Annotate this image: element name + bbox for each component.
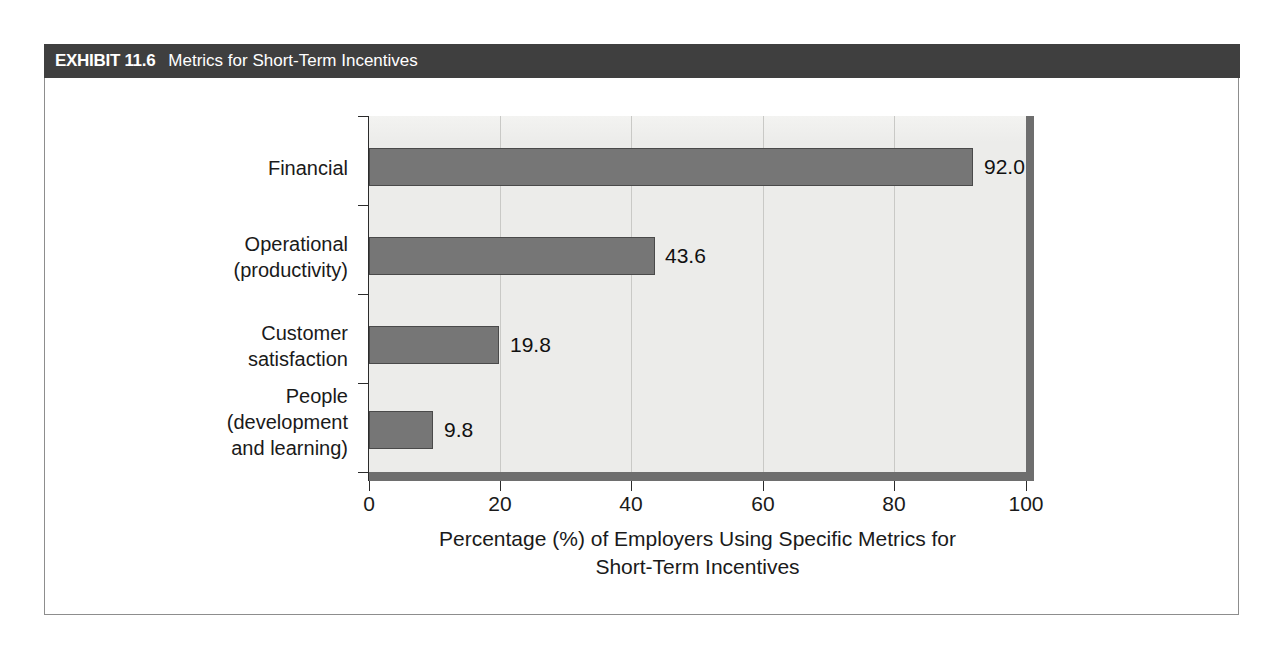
xtick-label-60: 60 — [751, 492, 774, 516]
xtick-mark-0 — [369, 481, 370, 491]
category-tick-0 — [358, 116, 369, 117]
bar-value-financial: 92.0 — [984, 155, 1025, 179]
category-label-line: (development — [88, 409, 348, 435]
category-label-line: satisfaction — [88, 346, 348, 372]
category-label-line: Financial — [88, 155, 348, 181]
xtick-label-100: 100 — [1008, 492, 1043, 516]
xtick-label-20: 20 — [488, 492, 511, 516]
category-label-line: Operational — [88, 231, 348, 257]
bar-financial[interactable] — [369, 148, 973, 186]
bar-value-operational: 43.6 — [665, 244, 706, 268]
category-tick-4 — [358, 472, 369, 473]
xtick-mark-100 — [1026, 481, 1027, 491]
category-label-operational: Operational (productivity) — [88, 231, 348, 283]
plot-right-wall-shadow — [1026, 116, 1034, 472]
xtick-mark-20 — [500, 481, 501, 491]
bar-customer-satisfaction[interactable] — [369, 326, 499, 364]
xtick-label-40: 40 — [619, 492, 642, 516]
category-tick-3 — [358, 383, 369, 384]
category-tick-2 — [358, 294, 369, 295]
x-axis-title-line2: Short-Term Incentives — [369, 553, 1026, 581]
category-label-line: (productivity) — [88, 257, 348, 283]
xtick-mark-80 — [894, 481, 895, 491]
bar-value-customer-satisfaction: 19.8 — [510, 333, 551, 357]
category-label-people: People (development and learning) — [88, 383, 348, 461]
bar-operational[interactable] — [369, 237, 655, 275]
x-axis-title: Percentage (%) of Employers Using Specif… — [369, 525, 1026, 581]
category-label-line: People — [88, 383, 348, 409]
bar-value-people: 9.8 — [444, 418, 473, 442]
x-axis-title-line1: Percentage (%) of Employers Using Specif… — [369, 525, 1026, 553]
category-label-line: Customer — [88, 320, 348, 346]
category-label-customer-satisfaction: Customer satisfaction — [88, 320, 348, 372]
bar-people[interactable] — [369, 411, 433, 449]
xtick-label-0: 0 — [363, 492, 375, 516]
xtick-mark-40 — [631, 481, 632, 491]
category-label-financial: Financial — [88, 155, 348, 181]
plot-floor-shadow — [369, 472, 1034, 481]
xtick-label-80: 80 — [882, 492, 905, 516]
category-label-line: and learning) — [88, 435, 348, 461]
bar-chart: 92.0 43.6 19.8 9.8 Financial Operational… — [0, 0, 1281, 656]
xtick-mark-60 — [763, 481, 764, 491]
category-tick-1 — [358, 205, 369, 206]
exhibit-container: EXHIBIT 11.6 Metrics for Short-Term Ince… — [0, 0, 1281, 656]
